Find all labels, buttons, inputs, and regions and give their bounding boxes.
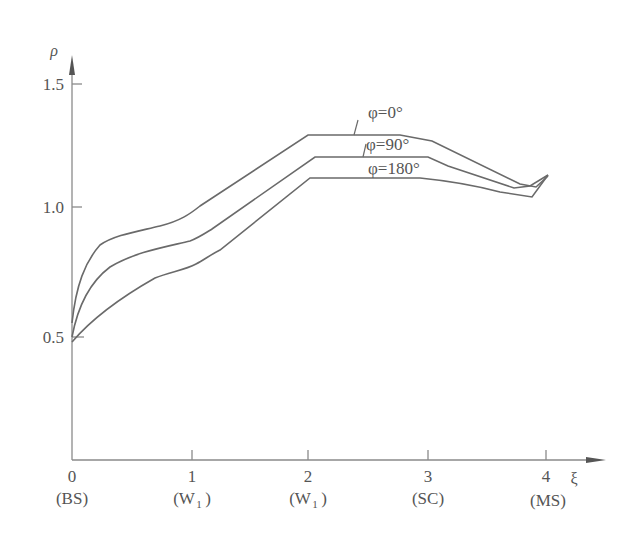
curve-phi-90	[72, 157, 548, 337]
x-axis-label: ξ	[570, 470, 577, 487]
x-sublabel-ms: (MS)	[530, 491, 566, 510]
x-sublabel-w1-b: (W 1 )	[289, 489, 327, 510]
x-tick-label: 2	[304, 467, 313, 486]
x-axis-arrow-icon	[586, 457, 606, 463]
svg-text:(W: (W	[173, 489, 196, 508]
y-tick-label: 0.5	[43, 328, 64, 347]
y-tick-label: 1.0	[43, 198, 64, 217]
x-sublabel-w1-a: (W 1 )	[173, 489, 211, 510]
line-chart: 0.5 1.0 1.5 ρ 0 1 2 3 4 ξ (BS) (W 1 ) (W…	[0, 0, 636, 544]
x-tick-label: 1	[188, 467, 197, 486]
x-sublabel-bs: (BS)	[56, 489, 88, 508]
svg-text:): )	[321, 489, 327, 508]
svg-text:1: 1	[196, 498, 202, 510]
curve-phi-0	[72, 135, 548, 323]
x-sublabel-sc: (SC)	[412, 489, 444, 508]
svg-text:1: 1	[312, 498, 318, 510]
svg-text:): )	[205, 489, 211, 508]
curve-label-phi-0: φ=0°	[368, 103, 403, 122]
curve-phi-180	[72, 175, 548, 342]
x-tick-label: 3	[424, 467, 433, 486]
curve-label-phi-90: φ=90°	[366, 135, 409, 154]
y-tick-label: 1.5	[43, 75, 64, 94]
leader-phi-0	[354, 120, 358, 135]
x-tick-label: 4	[542, 467, 551, 486]
curve-label-phi-180: φ=180°	[368, 159, 420, 178]
svg-text:(W: (W	[289, 489, 312, 508]
x-tick-label: 0	[68, 467, 77, 486]
y-axis-label: ρ	[49, 42, 58, 60]
y-axis-arrow-icon	[69, 55, 75, 75]
